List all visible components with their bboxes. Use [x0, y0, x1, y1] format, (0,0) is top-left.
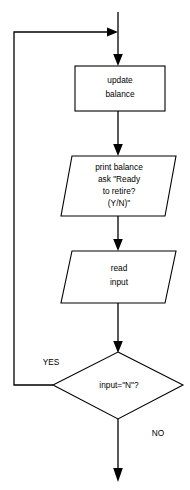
flowchart-canvas: update balance print balance ask "Ready … [0, 0, 190, 490]
edge-label-yes: YES [43, 357, 60, 367]
node-read-input-line2: input [110, 277, 129, 287]
node-print-balance-line2: ask "Ready [98, 174, 141, 184]
arrowhead-read-to-decision [113, 341, 123, 353]
arrowhead-no-exit [113, 468, 123, 482]
node-read-input-line1: read [111, 263, 128, 273]
node-print-balance-line1: print balance [95, 162, 143, 172]
flowchart-svg: update balance print balance ask "Ready … [0, 0, 190, 490]
node-update-balance-line1: update [107, 75, 133, 85]
node-decision-label: input="N"? [99, 380, 139, 390]
arrowhead-print-to-read [113, 239, 123, 251]
arrowhead-entry-to-update-balance [113, 54, 123, 66]
arrowhead-update-to-print [113, 144, 123, 156]
edge-label-no: NO [152, 428, 165, 438]
node-print-balance-line4: (Y/N)" [108, 198, 130, 208]
node-print-balance-line3: to retire? [103, 186, 136, 196]
arrowhead-yes-loopback [107, 28, 118, 37]
node-update-balance-line2: balance [105, 89, 134, 99]
